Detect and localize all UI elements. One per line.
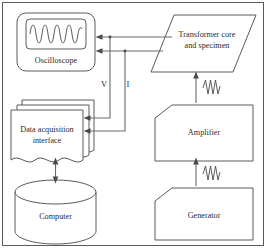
diagram-canvas: Oscilloscope Transformer core and specim… xyxy=(0,0,266,248)
junction-dot-current xyxy=(124,50,127,53)
block-transformer[interactable]: Transformer core and specimen xyxy=(151,15,256,72)
ac-waveform-generator-output xyxy=(203,166,220,180)
amplifier-label: Amplifier xyxy=(188,128,221,137)
connection-generator-to-amplifier xyxy=(193,158,220,187)
block-computer[interactable]: Computer xyxy=(15,180,96,244)
connection-transformer-to-oscilloscope-voltage xyxy=(96,34,173,40)
connection-amplifier-to-transformer xyxy=(193,72,220,104)
daq-label-line2: interface xyxy=(33,136,62,145)
oscilloscope-label: Oscilloscope xyxy=(35,56,78,65)
computer-label: Computer xyxy=(39,212,72,221)
arrowhead-into-transformer xyxy=(193,72,199,79)
oscilloscope-screen xyxy=(26,19,86,49)
block-data-acquisition-interface[interactable]: Data acquisition interface xyxy=(11,100,94,162)
signal-label-voltage: V xyxy=(101,79,108,89)
computer-top-ellipse xyxy=(15,180,96,204)
connection-transformer-to-oscilloscope-current xyxy=(96,48,164,54)
block-generator[interactable]: Generator xyxy=(155,188,253,240)
block-amplifier[interactable]: Amplifier xyxy=(155,105,253,161)
ac-waveform-amplifier-output xyxy=(203,80,220,94)
arrowhead-to-oscilloscope-top xyxy=(96,34,103,40)
block-oscilloscope[interactable]: Oscilloscope xyxy=(17,13,95,71)
block-diagram-figure: Oscilloscope Transformer core and specim… xyxy=(0,0,266,248)
transformer-label-line2: and specimen xyxy=(185,41,230,50)
junction-dot-voltage xyxy=(109,36,112,39)
generator-label: Generator xyxy=(188,211,221,220)
arrowhead-to-oscilloscope-bottom xyxy=(96,48,103,54)
signal-label-current: I xyxy=(127,79,130,89)
daq-label-line1: Data acquisition xyxy=(20,125,73,134)
transformer-label-line1: Transformer core xyxy=(179,30,236,39)
